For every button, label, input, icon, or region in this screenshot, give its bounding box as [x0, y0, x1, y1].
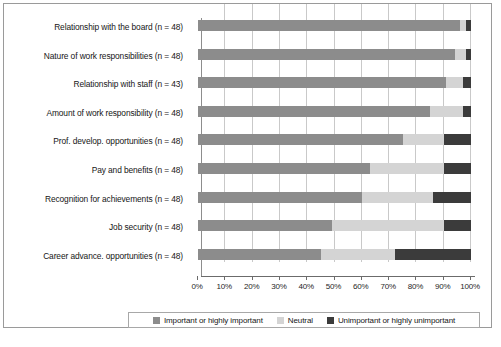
category-label: Prof. develop. opportunities (n = 48) — [53, 136, 183, 146]
x-tick-label: 80% — [408, 282, 423, 291]
bar-segment — [463, 77, 471, 88]
bar-row: Nature of work responsibilities (n = 48) — [4, 43, 491, 72]
stacked-bar — [198, 163, 471, 174]
x-tick-mark — [334, 276, 335, 280]
chart-frame: 0%10%20%30%40%50%60%70%80%90%100% Relati… — [3, 3, 492, 328]
category-label: Career advance. opportunities (n = 48) — [43, 251, 183, 261]
category-label: Job security (n = 48) — [109, 222, 183, 232]
bar-segment — [198, 220, 332, 231]
x-tick-mark — [197, 276, 198, 280]
legend-swatch-icon — [153, 317, 160, 324]
bar-segment — [395, 249, 471, 260]
bar-segment — [433, 192, 471, 203]
bar-segment — [198, 249, 321, 260]
bar-segment — [198, 77, 446, 88]
x-tick-label: 70% — [380, 282, 395, 291]
category-label: Relationship with the board (n = 48) — [54, 22, 183, 32]
stacked-bar — [198, 134, 471, 145]
bar-segment — [430, 106, 463, 117]
bar-segment — [198, 134, 403, 145]
chart-legend: Important or highly importantNeutralUnim… — [128, 312, 480, 328]
category-label: Relationship with staff (n = 43) — [73, 79, 183, 89]
category-label: Amount of work responsibility (n = 48) — [46, 108, 183, 118]
x-axis-line — [201, 276, 475, 277]
bar-row: Job security (n = 48) — [4, 214, 491, 243]
bar-segment — [198, 20, 460, 31]
x-tick-label: 10% — [217, 282, 232, 291]
bar-row: Relationship with the board (n = 48) — [4, 14, 491, 43]
x-tick-label: 40% — [298, 282, 313, 291]
stacked-bar — [198, 192, 471, 203]
legend-entry: Unimportant or highly unimportant — [327, 316, 455, 325]
legend-label: Important or highly important — [164, 316, 263, 325]
x-tick-mark — [279, 276, 280, 280]
legend-swatch-icon — [327, 317, 334, 324]
category-label: Nature of work responsibilities (n = 48) — [44, 51, 183, 61]
legend-entry: Neutral — [277, 316, 313, 325]
x-tick-label: 30% — [271, 282, 286, 291]
x-tick-mark — [252, 276, 253, 280]
legend-label: Neutral — [288, 316, 313, 325]
bar-segment — [321, 249, 395, 260]
x-tick-mark — [470, 276, 471, 280]
x-tick-mark — [306, 276, 307, 280]
stacked-bar — [198, 106, 471, 117]
stacked-bar — [198, 249, 471, 260]
bar-segment — [444, 220, 471, 231]
category-label: Recognition for achievements (n = 48) — [45, 194, 183, 204]
bar-row: Recognition for achievements (n = 48) — [4, 186, 491, 215]
x-tick-label: 20% — [244, 282, 259, 291]
x-tick-mark — [415, 276, 416, 280]
bar-segment — [362, 192, 433, 203]
bar-segment — [198, 163, 370, 174]
bar-row: Prof. develop. opportunities (n = 48) — [4, 128, 491, 157]
category-label: Pay and benefits (n = 48) — [92, 165, 183, 175]
x-tick-label: 0% — [191, 282, 202, 291]
legend-label: Unimportant or highly unimportant — [338, 316, 455, 325]
bar-row: Relationship with staff (n = 43) — [4, 71, 491, 100]
bar-row: Amount of work responsibility (n = 48) — [4, 100, 491, 129]
stacked-bar — [198, 49, 471, 60]
x-tick-label: 60% — [353, 282, 368, 291]
x-tick-mark — [361, 276, 362, 280]
bar-segment — [446, 77, 462, 88]
stacked-bar — [198, 77, 471, 88]
bar-segment — [455, 49, 466, 60]
bar-segment — [198, 106, 430, 117]
legend-swatch-icon — [277, 317, 284, 324]
bar-segment — [403, 134, 444, 145]
x-tick-label: 90% — [435, 282, 450, 291]
bar-segment — [370, 163, 444, 174]
bar-segment — [466, 49, 471, 60]
stacked-bar — [198, 20, 471, 31]
x-tick-mark — [443, 276, 444, 280]
bar-segment — [444, 163, 471, 174]
bar-segment — [466, 20, 471, 31]
bar-segment — [463, 106, 471, 117]
bar-segment — [332, 220, 444, 231]
bar-row: Pay and benefits (n = 48) — [4, 157, 491, 186]
bar-segment — [444, 134, 471, 145]
x-tick-mark — [388, 276, 389, 280]
bar-segment — [198, 192, 362, 203]
stacked-bar — [198, 220, 471, 231]
bar-segment — [198, 49, 455, 60]
bar-row: Career advance. opportunities (n = 48) — [4, 243, 491, 272]
x-tick-label: 50% — [326, 282, 341, 291]
x-tick-label: 100% — [460, 282, 480, 291]
legend-entry: Important or highly important — [153, 316, 263, 325]
figure-container: 0%10%20%30%40%50%60%70%80%90%100% Relati… — [0, 0, 501, 347]
x-tick-mark — [224, 276, 225, 280]
